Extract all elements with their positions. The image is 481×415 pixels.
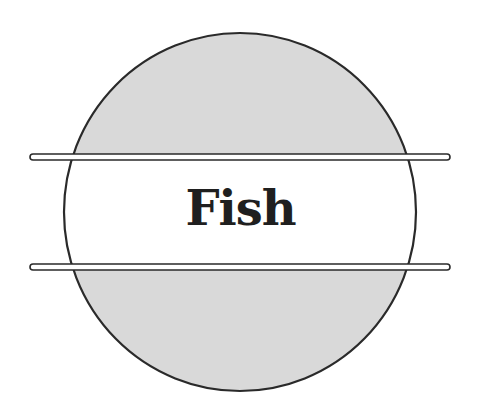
bottom-bar — [30, 264, 450, 270]
top-bar — [30, 154, 450, 160]
fish-logo: Fish — [0, 0, 481, 415]
logo-text: Fish — [0, 178, 481, 238]
